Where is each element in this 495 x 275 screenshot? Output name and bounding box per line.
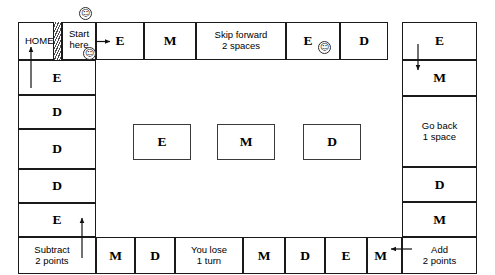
space-label: M — [258, 248, 271, 263]
space-label: D — [435, 177, 445, 192]
space-label: Add 2 points — [423, 245, 456, 266]
board-space-top-1[interactable]: E — [96, 22, 144, 60]
board-space-right-1[interactable]: M — [402, 60, 477, 96]
board-space-top-2[interactable]: M — [144, 22, 196, 60]
space-label: E — [52, 70, 61, 85]
board-space-bottom-3-you-lose[interactable]: You lose 1 turn — [175, 237, 243, 274]
space-label: D — [52, 141, 62, 156]
space-label: M — [433, 212, 446, 227]
board-space-left-4[interactable]: D — [18, 169, 96, 203]
space-label: D — [52, 178, 62, 193]
board-space-top-right-corner[interactable]: E — [402, 22, 477, 60]
card-label: E — [157, 134, 166, 150]
space-label: You lose 1 turn — [191, 245, 227, 266]
board-space-left-2[interactable]: D — [18, 95, 96, 129]
board-space-bottom-4[interactable]: M — [243, 237, 285, 274]
board-space-bottom-right-corner-add-points[interactable]: Add 2 points — [402, 237, 477, 274]
space-label: D — [359, 33, 369, 48]
space-label: D — [150, 248, 160, 263]
game-board: HOME Start here E M Skip forward 2 space… — [0, 0, 495, 275]
board-space-bottom-left-corner-subtract-points[interactable]: Subtract 2 points — [18, 237, 96, 274]
space-label: M — [164, 33, 177, 48]
board-space-right-3[interactable]: D — [402, 167, 477, 202]
space-label: E — [341, 248, 350, 263]
space-label: Skip forward 2 spaces — [215, 30, 268, 51]
board-space-left-3[interactable]: D — [18, 129, 96, 169]
smiley-token-above-start-icon[interactable]: ☺ — [79, 7, 92, 20]
space-label: E — [115, 33, 124, 48]
smiley-token-at-start-icon[interactable]: ☺ — [83, 47, 96, 60]
space-label: M — [374, 248, 387, 263]
board-space-right-4[interactable]: M — [402, 202, 477, 237]
card-label: D — [327, 134, 337, 150]
card-label: M — [240, 134, 253, 150]
space-label: D — [52, 104, 62, 119]
start-hatch-divider — [53, 22, 62, 60]
space-label: E — [303, 33, 312, 48]
board-space-bottom-5[interactable]: D — [285, 237, 325, 274]
board-space-bottom-6[interactable]: E — [325, 237, 367, 274]
board-space-bottom-1[interactable]: M — [96, 237, 135, 274]
board-space-top-4[interactable]: E — [286, 22, 340, 60]
space-label: M — [109, 248, 122, 263]
board-space-left-1[interactable]: E — [18, 60, 96, 95]
board-space-top-5[interactable]: D — [340, 22, 388, 60]
space-label: E — [52, 212, 61, 227]
home-label: HOME — [25, 36, 54, 47]
space-label: D — [300, 248, 310, 263]
board-space-bottom-7[interactable]: M — [367, 237, 402, 274]
board-space-bottom-2[interactable]: D — [135, 237, 175, 274]
smiley-token-on-top-e-icon[interactable]: ☺ — [318, 41, 331, 54]
draw-pile-card-d[interactable]: D — [303, 124, 361, 160]
board-space-right-2-go-back[interactable]: Go back 1 space — [402, 96, 477, 167]
draw-pile-card-e[interactable]: E — [133, 124, 191, 160]
space-label: E — [435, 33, 444, 48]
board-space-left-5[interactable]: E — [18, 203, 96, 237]
board-space-top-3-skip-forward[interactable]: Skip forward 2 spaces — [196, 22, 286, 60]
draw-pile-card-m[interactable]: M — [217, 124, 275, 160]
space-label: Subtract 2 points — [34, 245, 69, 266]
space-label: Go back 1 space — [422, 121, 457, 142]
space-label: M — [433, 70, 446, 85]
